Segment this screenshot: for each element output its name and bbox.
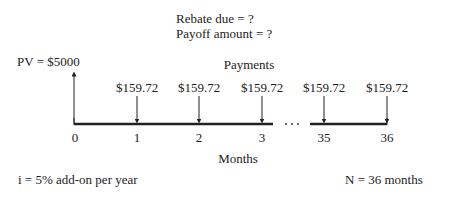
tick-label-36: 36	[381, 131, 394, 145]
tick-label-2: 2	[196, 131, 203, 145]
tick-label-1: 1	[134, 131, 141, 145]
tick-label-3: 3	[259, 131, 266, 145]
interest-rate-note: i = 5% add-on per year	[18, 173, 138, 187]
axis-label-months: Months	[218, 152, 258, 166]
term-note: N = 36 months	[345, 173, 423, 187]
tick-label-35: 35	[318, 131, 331, 145]
tick-label-0: 0	[72, 131, 79, 145]
